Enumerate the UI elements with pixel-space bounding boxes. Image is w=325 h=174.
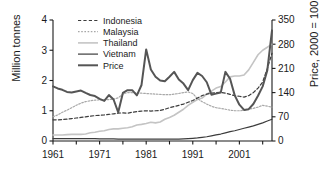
chart-figure: Million tonnes Price, 2000 = 100 0123407… xyxy=(0,0,325,174)
chart-legend: IndonesiaMalaysiaThailandVietnamPrice xyxy=(78,16,142,71)
svg-text:3: 3 xyxy=(41,45,47,56)
svg-text:1981: 1981 xyxy=(135,149,158,160)
svg-text:4: 4 xyxy=(41,14,47,25)
svg-text:70: 70 xyxy=(278,111,290,122)
series-group xyxy=(53,30,272,139)
series-line-thailand xyxy=(53,44,272,135)
series-line-indonesia xyxy=(53,53,272,120)
legend-label-price: Price xyxy=(103,61,124,71)
legend-label-thailand: Thailand xyxy=(103,38,138,48)
svg-text:1991: 1991 xyxy=(182,149,205,160)
svg-text:210: 210 xyxy=(278,63,295,74)
svg-text:1961: 1961 xyxy=(42,149,65,160)
legend-label-vietnam: Vietnam xyxy=(103,49,136,59)
svg-text:140: 140 xyxy=(278,87,295,98)
legend-label-malaysia: Malaysia xyxy=(103,27,139,37)
svg-text:0: 0 xyxy=(278,135,284,146)
svg-text:0: 0 xyxy=(41,135,47,146)
svg-text:2001: 2001 xyxy=(228,149,251,160)
line-chart-plot: 0123407014021028035019611971198119912001… xyxy=(0,0,325,174)
svg-text:1: 1 xyxy=(41,105,47,116)
svg-text:350: 350 xyxy=(278,14,295,25)
svg-text:2: 2 xyxy=(41,75,47,86)
series-line-vietnam xyxy=(53,119,272,139)
legend-label-indonesia: Indonesia xyxy=(103,16,142,26)
svg-text:1971: 1971 xyxy=(88,149,111,160)
svg-text:280: 280 xyxy=(278,39,295,50)
